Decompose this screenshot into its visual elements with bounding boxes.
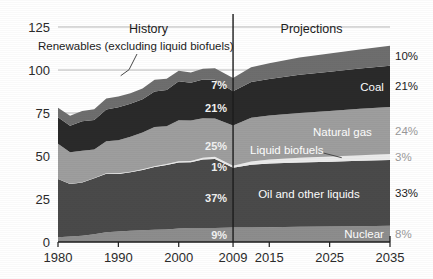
y-tick-label-100: 100 [28, 63, 50, 78]
series-label-natural-gas: Natural gas [313, 126, 372, 138]
percent-2009-liquid-biofuels: 1% [211, 161, 227, 173]
y-tick-label-25: 25 [36, 192, 50, 207]
x-tick-label-2025: 2025 [315, 250, 344, 265]
percent-2035-natural-gas: 24% [395, 125, 418, 137]
series-label-oil-and-other-liquids: Oil and other liquids [258, 188, 360, 200]
chart-svg: 0255075100125 19801990200020092015202520… [0, 0, 433, 279]
x-tick-label-1990: 1990 [104, 250, 133, 265]
percent-2009-oil-and-other-liquids: 37% [205, 192, 227, 204]
y-tick-label-0: 0 [43, 235, 50, 250]
x-tick-label-2000: 2000 [164, 250, 193, 265]
y-tick-label-50: 50 [36, 149, 50, 164]
y-tick-label-75: 75 [36, 106, 50, 121]
x-tick-label-2015: 2015 [255, 250, 284, 265]
percent-2035-coal: 21% [395, 80, 418, 92]
x-tick-label-1980: 1980 [44, 250, 73, 265]
stacked-area-chart: 0255075100125 19801990200020092015202520… [0, 0, 433, 279]
annotation-renewables: Renewables (excluding liquid biofuels) [38, 40, 234, 52]
x-tick-label-2035: 2035 [376, 250, 405, 265]
series-label-liquid-biofuels: Liquid biofuels [250, 144, 324, 156]
section-label-projections: Projections [281, 22, 343, 36]
percent-2009-renewables-excluding-liquid-biofuels: 7% [211, 79, 227, 91]
section-label-history: History [129, 22, 169, 36]
percent-2009-natural-gas: 25% [205, 140, 227, 152]
x-tick-label-2009: 2009 [219, 250, 248, 265]
percent-2009-coal: 21% [205, 102, 227, 114]
percent-2035-oil-and-other-liquids: 33% [395, 187, 418, 199]
percent-2009-nuclear: 9% [211, 229, 227, 241]
series-label-coal: Coal [360, 81, 384, 93]
percent-2035-nuclear: 8% [395, 228, 412, 240]
series-label-nuclear: Nuclear [344, 228, 384, 240]
percent-2035-liquid-biofuels: 3% [395, 151, 412, 163]
percent-2035-renewables-excluding-liquid-biofuels: 10% [395, 50, 418, 62]
y-tick-label-125: 125 [28, 20, 50, 35]
